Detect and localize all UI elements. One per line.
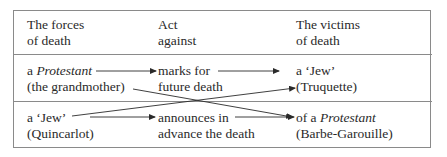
- arrow-grandmother-to-protestant-victim: [133, 89, 292, 117]
- arrows-layer: [0, 0, 447, 157]
